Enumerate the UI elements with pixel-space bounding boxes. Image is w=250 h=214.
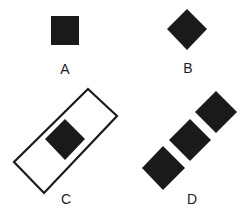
panel-label-c: C [61,192,71,206]
panel-a [51,16,79,45]
diamond-shape-middle [169,119,211,161]
panel-label-b: B [183,61,192,75]
square-shape [51,16,79,45]
diamond-shape [167,9,207,50]
panel-d [142,91,237,190]
panel-label-a: A [60,62,69,76]
diamond-shape-bottom [142,146,185,190]
panel-label-d: D [187,192,197,206]
panel-c [14,89,117,193]
diagram-canvas [0,0,250,214]
diamond-shape-top [195,91,237,133]
panel-b [167,9,207,50]
